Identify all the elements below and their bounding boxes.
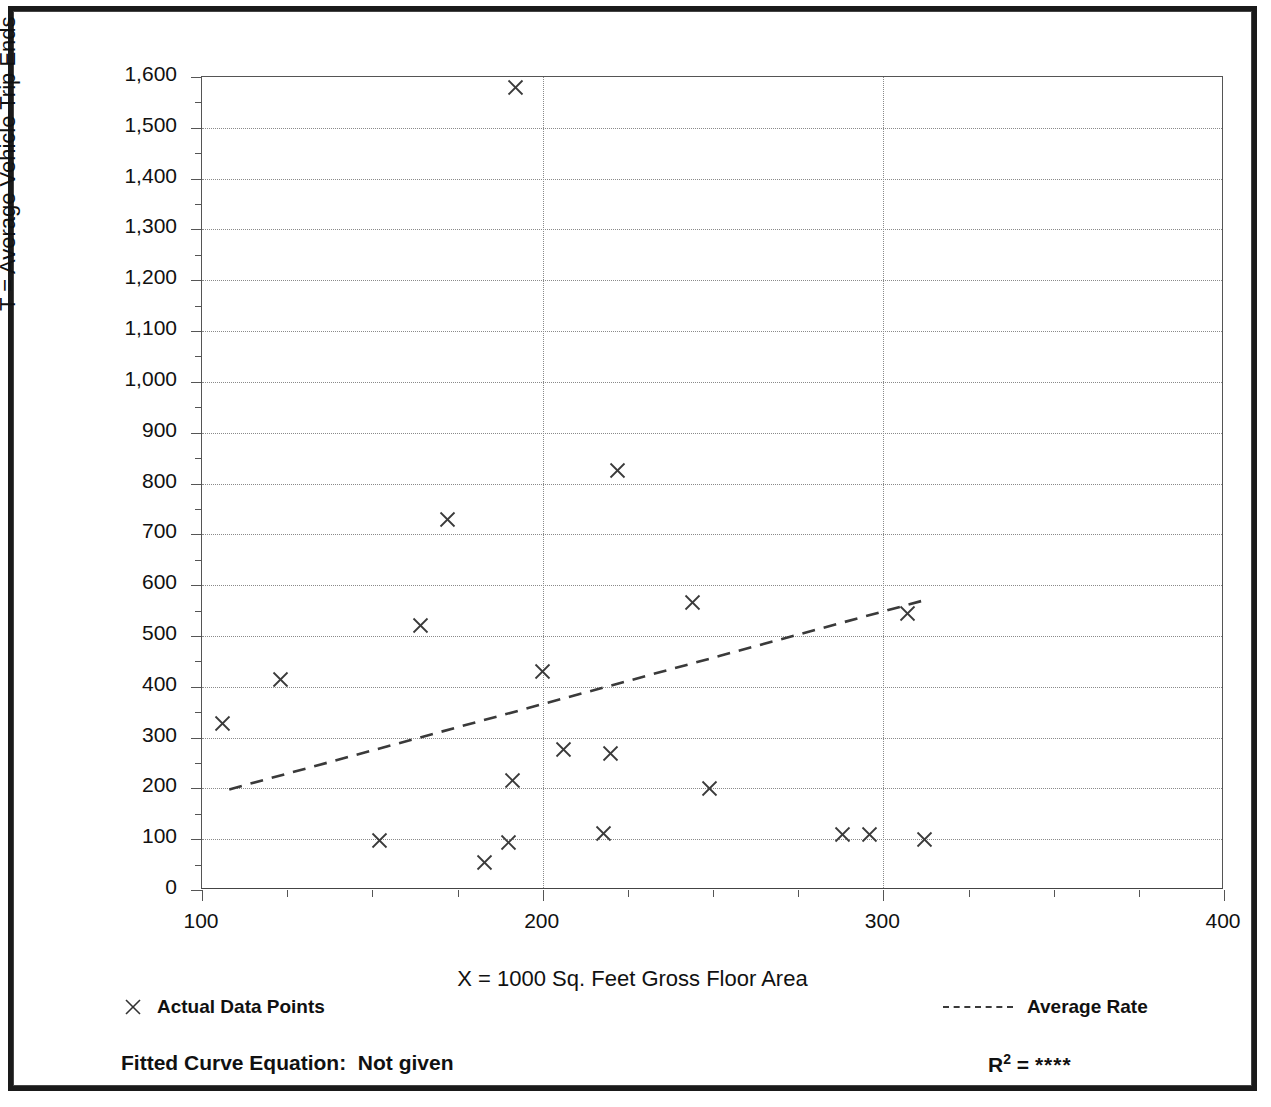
y-tick-900 (191, 433, 202, 434)
x-tick-label-100: 100 (183, 909, 218, 933)
y-tick-minor-1050 (195, 356, 202, 357)
x-tick-minor-150 (372, 890, 373, 897)
y-tick-label-1600: 1,600 (13, 62, 177, 86)
y-tick-0 (191, 890, 202, 891)
y-tick-label-800: 800 (13, 469, 177, 493)
chart-footer: Fitted Curve Equation: Not given R2 = **… (13, 1051, 1252, 1091)
y-tick-label-100: 100 (13, 824, 177, 848)
y-tick-100 (191, 839, 202, 840)
average-rate-trendline (202, 77, 1224, 890)
y-tick-label-1000: 1,000 (13, 367, 177, 391)
x-tick-minor-225 (628, 890, 629, 897)
y-tick-1400 (191, 179, 202, 180)
r-squared-label: R (988, 1053, 1003, 1076)
y-tick-1000 (191, 382, 202, 383)
y-tick-minor-950 (195, 407, 202, 408)
r-squared-equals: = (1017, 1053, 1029, 1076)
fitted-curve-equation: Fitted Curve Equation: Not given (121, 1051, 454, 1075)
x-tick-minor-325 (969, 890, 970, 897)
x-tick-label-200: 200 (524, 909, 559, 933)
x-tick-minor-375 (1139, 890, 1140, 897)
x-tick-minor-125 (287, 890, 288, 897)
y-tick-label-1300: 1,300 (13, 214, 177, 238)
y-tick-label-1500: 1,500 (13, 113, 177, 137)
y-axis-title: T = Average Vehicle Trip Ends (0, 16, 21, 311)
y-tick-minor-550 (195, 611, 202, 612)
y-tick-minor-150 (195, 814, 202, 815)
y-tick-1600 (191, 77, 202, 78)
y-tick-500 (191, 636, 202, 637)
x-tick-label-400: 400 (1205, 909, 1240, 933)
y-tick-1100 (191, 331, 202, 332)
plot-area (201, 76, 1223, 889)
legend-label-average-rate: Average Rate (1027, 996, 1148, 1018)
x-tick-minor-275 (798, 890, 799, 897)
fitted-curve-value: Not given (358, 1051, 454, 1074)
y-tick-label-0: 0 (13, 875, 177, 899)
y-tick-400 (191, 687, 202, 688)
x-tick-minor-350 (1054, 890, 1055, 897)
y-tick-label-400: 400 (13, 672, 177, 696)
y-tick-minor-50 (195, 865, 202, 866)
chart-legend: Actual Data Points Average Rate (13, 996, 1252, 1036)
x-tick-minor-175 (458, 890, 459, 897)
dashed-line-icon (943, 1006, 1013, 1008)
r-squared-stars: **** (1035, 1053, 1072, 1076)
y-tick-label-1100: 1,100 (13, 316, 177, 340)
y-tick-minor-350 (195, 712, 202, 713)
y-tick-minor-850 (195, 458, 202, 459)
y-tick-minor-1450 (195, 153, 202, 154)
x-tick-200 (543, 890, 544, 901)
y-tick-label-900: 900 (13, 418, 177, 442)
y-tick-700 (191, 534, 202, 535)
y-tick-1300 (191, 229, 202, 230)
x-marker-icon (123, 997, 143, 1017)
y-tick-minor-250 (195, 763, 202, 764)
legend-item-actual-data-points: Actual Data Points (123, 996, 325, 1018)
y-tick-label-300: 300 (13, 723, 177, 747)
y-tick-label-1400: 1,400 (13, 164, 177, 188)
y-tick-label-600: 600 (13, 570, 177, 594)
y-tick-minor-1250 (195, 255, 202, 256)
y-tick-200 (191, 788, 202, 789)
y-tick-minor-450 (195, 661, 202, 662)
x-tick-100 (202, 890, 203, 901)
y-tick-minor-750 (195, 509, 202, 510)
x-tick-300 (883, 890, 884, 901)
y-tick-minor-1550 (195, 102, 202, 103)
y-tick-label-700: 700 (13, 519, 177, 543)
y-tick-800 (191, 484, 202, 485)
x-tick-minor-250 (713, 890, 714, 897)
y-tick-300 (191, 738, 202, 739)
legend-item-average-rate: Average Rate (943, 996, 1148, 1018)
y-tick-minor-650 (195, 560, 202, 561)
y-tick-label-200: 200 (13, 773, 177, 797)
y-tick-1200 (191, 280, 202, 281)
chart-frame: 01002003004005006007008009001,0001,1001,… (8, 6, 1257, 1091)
r-squared-exponent: 2 (1003, 1051, 1011, 1067)
x-tick-label-300: 300 (865, 909, 900, 933)
r-squared-value: R2 = **** (988, 1051, 1072, 1077)
y-tick-600 (191, 585, 202, 586)
fitted-curve-label: Fitted Curve Equation: (121, 1051, 346, 1074)
y-tick-minor-1350 (195, 204, 202, 205)
x-tick-400 (1224, 890, 1225, 901)
y-tick-label-1200: 1,200 (13, 265, 177, 289)
legend-label-actual-data-points: Actual Data Points (157, 996, 325, 1018)
x-axis-title: X = 1000 Sq. Feet Gross Floor Area (13, 966, 1252, 992)
y-tick-label-500: 500 (13, 621, 177, 645)
y-tick-1500 (191, 128, 202, 129)
y-tick-minor-1150 (195, 306, 202, 307)
